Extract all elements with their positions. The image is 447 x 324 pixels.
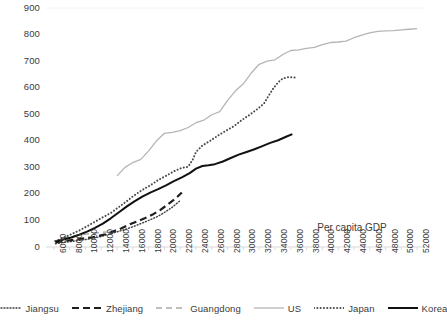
x-tick-label-48000: 48000 bbox=[390, 229, 400, 253]
y-tick-label-700: 700 bbox=[6, 55, 40, 66]
legend-label-jiangsu: Jiangsu bbox=[26, 303, 59, 314]
series-line-us bbox=[117, 29, 417, 176]
legend-swatch-japan-icon bbox=[314, 303, 344, 313]
axis-lines bbox=[46, 8, 425, 247]
x-tick-label-30000: 30000 bbox=[247, 229, 257, 253]
legend-swatch-jiangsu-icon bbox=[0, 303, 22, 313]
legend-item-guangdong[interactable]: Guangdong bbox=[156, 303, 241, 314]
x-tick-label-22000: 22000 bbox=[184, 229, 194, 253]
legend-label-japan: Japan bbox=[348, 303, 374, 314]
x-tick-label-50000: 50000 bbox=[405, 229, 415, 253]
legend-label-us: US bbox=[288, 303, 301, 314]
series-line-korea bbox=[55, 134, 292, 242]
x-tick-label-36000: 36000 bbox=[295, 229, 305, 253]
x-tick-label-28000: 28000 bbox=[232, 229, 242, 253]
x-tick-label-20000: 20000 bbox=[168, 229, 178, 253]
legend-swatch-zhejiang-icon bbox=[72, 303, 102, 313]
legend-label-zhejiang: Zhejiang bbox=[106, 303, 143, 314]
x-tick-label-10000: 10000 bbox=[89, 229, 99, 253]
x-tick-label-14000: 14000 bbox=[121, 229, 131, 253]
chart-legend: JiangsuZhejiangGuangdongUSJapanKorea bbox=[0, 297, 439, 319]
y-tick-label-200: 200 bbox=[6, 187, 40, 198]
legend-swatch-guangdong-icon bbox=[156, 303, 186, 313]
legend-label-guangdong: Guangdong bbox=[190, 303, 241, 314]
legend-label-korea: Korea bbox=[422, 303, 447, 314]
y-tick-label-100: 100 bbox=[6, 214, 40, 225]
x-tick-label-18000: 18000 bbox=[153, 229, 163, 253]
y-tick-label-400: 400 bbox=[6, 134, 40, 145]
y-tick-label-900: 900 bbox=[6, 2, 40, 13]
x-axis-title: Per capita GDP bbox=[317, 222, 386, 233]
series-paths bbox=[54, 29, 417, 244]
x-tick-label-12000: 12000 bbox=[105, 229, 115, 253]
x-tick-label-6000: 6000 bbox=[58, 234, 68, 253]
y-tick-label-600: 600 bbox=[6, 81, 40, 92]
legend-item-japan[interactable]: Japan bbox=[314, 303, 374, 314]
series-line-japan bbox=[55, 77, 295, 241]
legend-item-jiangsu[interactable]: Jiangsu bbox=[0, 303, 59, 314]
y-tick-label-800: 800 bbox=[6, 28, 40, 39]
x-tick-label-8000: 8000 bbox=[74, 234, 84, 253]
x-tick-label-34000: 34000 bbox=[279, 229, 289, 253]
legend-item-us[interactable]: US bbox=[254, 303, 301, 314]
legend-swatch-korea-icon bbox=[388, 303, 418, 313]
x-tick-label-32000: 32000 bbox=[263, 229, 273, 253]
x-tick-label-24000: 24000 bbox=[200, 229, 210, 253]
y-tick-label-300: 300 bbox=[6, 161, 40, 172]
x-tick-label-26000: 26000 bbox=[216, 229, 226, 253]
legend-item-korea[interactable]: Korea bbox=[388, 303, 447, 314]
x-tick-label-16000: 16000 bbox=[137, 229, 147, 253]
legend-item-zhejiang[interactable]: Zhejiang bbox=[72, 303, 143, 314]
x-tick-label-52000: 52000 bbox=[421, 229, 431, 253]
y-tick-label-0: 0 bbox=[6, 241, 40, 252]
y-tick-label-500: 500 bbox=[6, 108, 40, 119]
legend-swatch-us-icon bbox=[254, 303, 284, 313]
